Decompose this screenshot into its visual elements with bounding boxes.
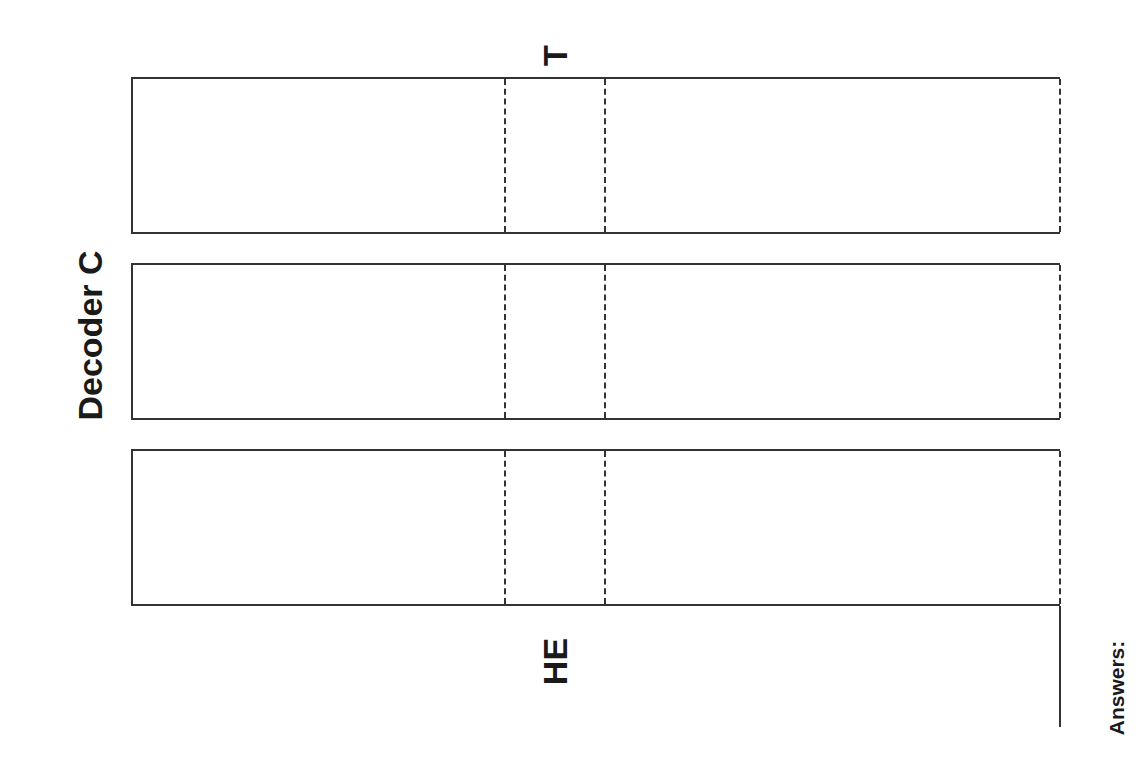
fold-line-right	[604, 79, 606, 232]
cut-line-edge	[1059, 79, 1061, 232]
fold-line-right	[604, 265, 606, 418]
answer-line	[1059, 606, 1061, 727]
decoder-strip-1	[131, 77, 1060, 234]
bottom-letters-label: HE	[536, 627, 575, 697]
decoder-strip-2	[131, 263, 1060, 420]
answers-label: Answers:	[1105, 633, 1129, 743]
cut-line-edge	[1059, 265, 1061, 418]
cut-line-edge	[1059, 451, 1061, 604]
fold-line-right	[604, 451, 606, 604]
top-letter-label: T	[536, 31, 575, 81]
decoder-strip-3	[131, 449, 1060, 606]
decoder-title: Decoder C	[71, 226, 110, 446]
fold-line-left	[504, 265, 506, 418]
fold-line-left	[504, 79, 506, 232]
fold-line-left	[504, 451, 506, 604]
